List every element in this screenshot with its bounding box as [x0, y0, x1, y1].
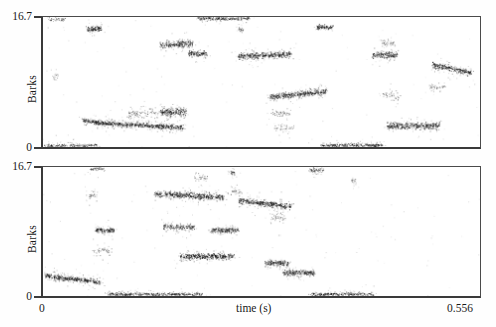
xaxis-min-label: 0 — [39, 302, 45, 314]
bottom-panel-ymax-label: 16.7 — [0, 161, 32, 173]
bottom-panel-ymax-tick — [34, 166, 41, 168]
top-panel-plot-area — [43, 17, 480, 147]
bottom-panel-ymin-label: 0 — [0, 291, 32, 303]
bottom-panel-yaxis-title: Barks — [26, 225, 38, 253]
top-panel-ymin-label: 0 — [0, 142, 32, 154]
top-panel-ymax-label: 16.7 — [0, 11, 32, 23]
spectrogram-figure: 16.7 0 Barks 16.7 0 Barks 0 time (s) 0.5… — [0, 0, 496, 327]
bottom-panel-ymin-tick — [34, 296, 41, 298]
top-panel-ymin-tick — [34, 147, 41, 149]
top-panel-frame — [41, 16, 481, 149]
xaxis-title: time (s) — [236, 302, 271, 314]
bottom-panel — [41, 166, 481, 298]
xaxis-max-label: 0.556 — [447, 302, 473, 314]
top-panel-yaxis-title: Barks — [26, 75, 38, 103]
bottom-panel-frame — [41, 166, 481, 298]
bottom-panel-plot-area — [43, 167, 480, 296]
top-panel-ymax-tick — [34, 16, 41, 18]
top-panel — [41, 16, 481, 149]
